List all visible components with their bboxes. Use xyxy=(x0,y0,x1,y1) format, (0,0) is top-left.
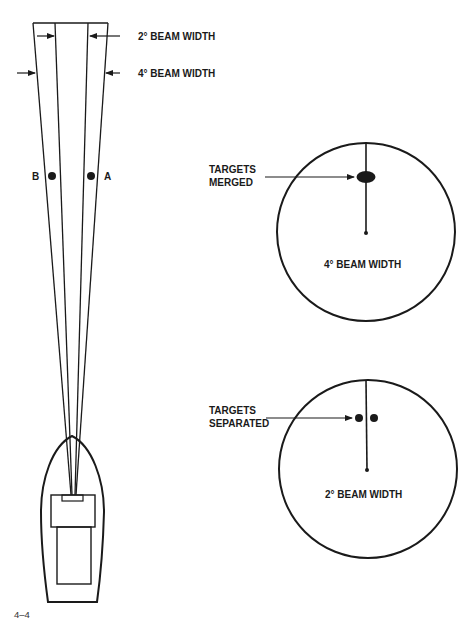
radar-scope-4deg xyxy=(265,143,455,321)
radar-beam-width-diagram: 2° BEAM WIDTH 4° BEAM WIDTH B A TARGETS … xyxy=(0,0,473,622)
radar-antenna-mount xyxy=(62,495,83,501)
beam-4deg xyxy=(33,23,108,495)
target-a-dot xyxy=(87,172,95,180)
boat-deck xyxy=(57,527,91,584)
separated-target-blip-b xyxy=(355,414,363,422)
caption-2deg-scope: 2° BEAM WIDTH xyxy=(325,489,402,500)
target-b-dot xyxy=(48,172,56,180)
callout-merged-line2: MERGED xyxy=(209,177,253,188)
callout-separated-line2: SEPARATED xyxy=(209,418,269,429)
label-target-b: B xyxy=(32,171,39,182)
merged-target-blip xyxy=(357,171,376,183)
diagram-svg: 2° BEAM WIDTH 4° BEAM WIDTH B A TARGETS … xyxy=(0,0,473,622)
beam-2deg xyxy=(55,23,88,495)
caption-4deg-scope: 4° BEAM WIDTH xyxy=(324,259,401,270)
callout-separated-line1: TARGETS xyxy=(209,405,256,416)
scope-center xyxy=(364,231,368,235)
heading-line xyxy=(366,380,367,470)
callout-merged-line1: TARGETS xyxy=(209,164,256,175)
radar-scope-2deg xyxy=(266,380,457,558)
boat xyxy=(41,436,104,602)
separated-target-blip-a xyxy=(370,414,378,422)
boat-cabin xyxy=(51,495,95,527)
figure-number: 4–4 xyxy=(14,609,30,620)
scope-center xyxy=(365,468,369,472)
label-2deg-beam: 2° BEAM WIDTH xyxy=(138,31,215,42)
label-4deg-beam: 4° BEAM WIDTH xyxy=(138,68,215,79)
label-target-a: A xyxy=(104,171,111,182)
